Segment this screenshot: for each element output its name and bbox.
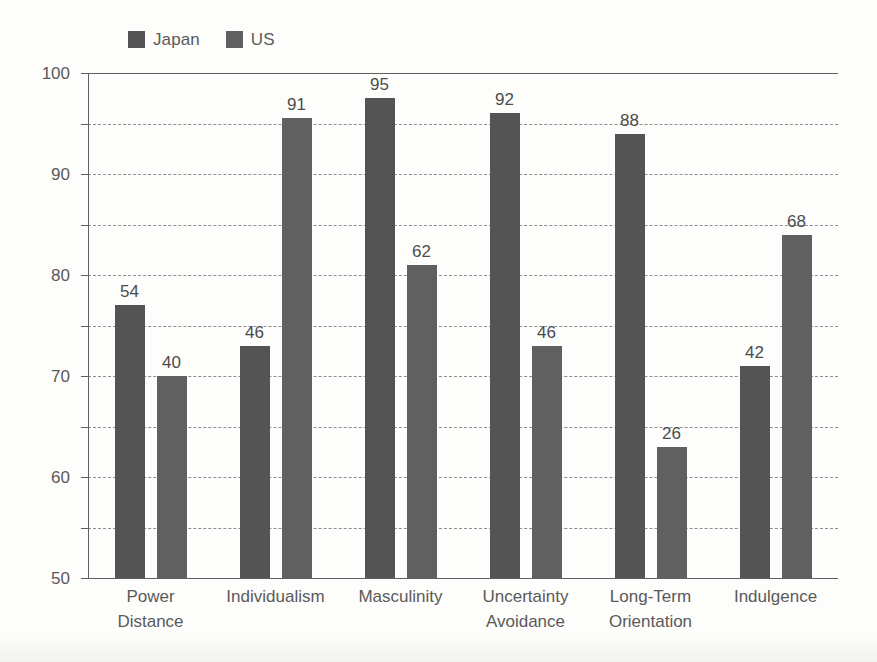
bar-japan-3: 92 (490, 113, 520, 578)
y-tick-0: 0 (81, 578, 89, 579)
bar-chart: JapanUS 1009080706050403020100 544046919… (0, 0, 877, 662)
bar-japan-1: 46 (240, 346, 270, 578)
bar-japan-0: 54 (115, 305, 145, 578)
bar-us-4: 26 (657, 447, 687, 578)
bar-us-0: 40 (157, 376, 187, 578)
y-tick-label: 90 (51, 165, 70, 185)
plot-area: 1009080706050403020100 54404691956292468… (88, 73, 838, 578)
x-axis-label-line: Long-Term (609, 584, 692, 609)
bar-value-label: 95 (370, 75, 389, 95)
x-axis-label-5: Indulgence (734, 584, 817, 609)
y-tick-label: 80 (51, 266, 70, 286)
x-axis-label-line: Individualism (226, 584, 324, 609)
bar-value-label: 54 (120, 282, 139, 302)
bar-value-label: 62 (412, 242, 431, 262)
x-axis-label-line: Distance (117, 609, 183, 634)
bar-value-label: 42 (745, 343, 764, 363)
bar-japan-2: 95 (365, 98, 395, 578)
x-axis-label-1: Individualism (226, 584, 324, 609)
bar-value-label: 92 (495, 90, 514, 110)
x-axis-label-2: Masculinity (358, 584, 442, 609)
bar-value-label: 40 (162, 353, 181, 373)
bars-layer: 544046919562924688264268 (88, 73, 838, 578)
chart-legend: JapanUS (128, 28, 275, 50)
bar-us-5: 68 (782, 235, 812, 578)
legend-item-us: US (226, 31, 275, 48)
bar-us-1: 91 (282, 118, 312, 578)
legend-swatch-icon (128, 31, 145, 48)
x-axis-label-line: Uncertainty (483, 584, 569, 609)
legend-label: US (251, 31, 275, 48)
y-tick-label: 60 (51, 468, 70, 488)
y-tick-label: 50 (51, 569, 70, 589)
bar-value-label: 68 (787, 212, 806, 232)
bar-us-2: 62 (407, 265, 437, 578)
gridline-0 (88, 578, 838, 579)
bar-value-label: 88 (620, 111, 639, 131)
bar-value-label: 46 (537, 323, 556, 343)
legend-item-japan: Japan (128, 31, 200, 48)
bar-value-label: 91 (287, 95, 306, 115)
x-axis-label-line: Orientation (609, 609, 692, 634)
x-axis-label-line: Indulgence (734, 584, 817, 609)
x-axis-labels: PowerDistanceIndividualismMasculinityUnc… (88, 584, 838, 654)
x-axis-label-line: Masculinity (358, 584, 442, 609)
x-axis-label-3: UncertaintyAvoidance (483, 584, 569, 634)
bar-japan-4: 88 (615, 134, 645, 578)
legend-swatch-icon (226, 31, 243, 48)
legend-label: Japan (153, 31, 200, 48)
x-axis-label-line: Power (117, 584, 183, 609)
bar-value-label: 26 (662, 424, 681, 444)
x-axis-label-4: Long-TermOrientation (609, 584, 692, 634)
bar-us-3: 46 (532, 346, 562, 578)
x-axis-label-line: Avoidance (483, 609, 569, 634)
x-axis-label-0: PowerDistance (117, 584, 183, 634)
y-tick-label: 70 (51, 367, 70, 387)
bar-japan-5: 42 (740, 366, 770, 578)
y-tick-label: 100 (42, 64, 70, 84)
bar-value-label: 46 (245, 323, 264, 343)
